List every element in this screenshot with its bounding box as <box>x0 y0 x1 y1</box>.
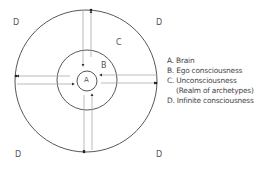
region-label-b: B <box>101 62 107 70</box>
right-arrows <box>100 75 157 83</box>
top-arrows <box>83 10 91 66</box>
legend: A. Brain B. Ego consciousness C. Unconsc… <box>167 56 254 106</box>
legend-item-c: C. Unconsciousness <box>167 76 254 86</box>
legend-item-c-subtitle: (Realm of archetypes) <box>167 86 254 96</box>
bottom-arrows <box>84 94 92 152</box>
corner-label-top-left: D <box>13 19 19 27</box>
legend-item-b: B. Ego consciousness <box>167 66 254 76</box>
corner-label-top-right: D <box>156 19 162 27</box>
left-arrows <box>17 76 74 84</box>
region-label-c: C <box>116 39 122 47</box>
legend-item-a: A. Brain <box>167 56 254 66</box>
legend-item-d: D. Infinite consciousness <box>167 96 254 106</box>
corner-label-bottom-left: D <box>15 151 21 159</box>
corner-label-bottom-right: D <box>156 151 162 159</box>
region-label-a: A <box>84 77 89 84</box>
